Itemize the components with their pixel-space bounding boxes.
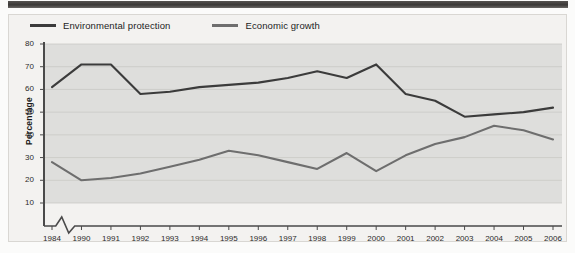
y-tick-label: 70 xyxy=(12,62,34,71)
y-tick-label: 40 xyxy=(12,130,34,139)
x-axis-spine xyxy=(44,217,562,233)
y-tick-label: 30 xyxy=(12,153,34,162)
y-tick-label: 60 xyxy=(12,84,34,93)
figure-container: Environmental protection Economic growth… xyxy=(0,0,575,253)
y-tick-label: 20 xyxy=(12,175,34,184)
x-tick-label: 2006 xyxy=(536,234,570,243)
y-tick-label: 10 xyxy=(12,198,34,207)
y-tick-label: 50 xyxy=(12,107,34,116)
chart-canvas xyxy=(0,0,575,253)
y-tick-label: 80 xyxy=(12,39,34,48)
plot-background xyxy=(44,44,562,203)
